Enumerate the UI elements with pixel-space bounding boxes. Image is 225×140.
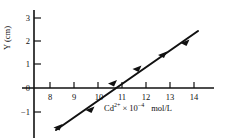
x-tick-label-14: 14 [190, 93, 199, 102]
plot-area [0, 0, 225, 140]
x-tick-label-11: 11 [118, 93, 126, 102]
x-axis-title: Cd2+ × 10−4mol/L [104, 103, 172, 113]
y-axis-ticks [34, 18, 41, 112]
data-point-3 [108, 80, 117, 87]
fit-line [56, 31, 198, 130]
x-axis-title-exponent: −4 [138, 102, 144, 108]
x-axis-title-species: Cd [104, 103, 114, 113]
x-axis-title-times: × [122, 103, 127, 113]
x-axis-title-base: 10 [129, 103, 138, 113]
x-tick-label-9: 9 [72, 93, 76, 102]
x-tick-label-13: 13 [166, 93, 175, 102]
x-axis-title-unit: mol/L [151, 103, 172, 113]
x-tick-label-8: 8 [48, 93, 52, 102]
y-tick-label-2: 2 [12, 37, 30, 46]
y-axis-title: Y (cm) [2, 26, 12, 50]
x-axis-title-charge: 2+ [114, 102, 120, 108]
y-tick-label-1: 1 [12, 60, 30, 69]
y-tick-label-3: 3 [12, 14, 30, 23]
y-tick-label-minus1: −1 [8, 108, 30, 117]
y-tick-label-0: 0 [12, 84, 30, 93]
x-tick-label-10: 10 [95, 93, 104, 102]
chart-figure: 3 2 1 0 −1 8 9 10 11 12 13 14 Y (cm) Cd2… [0, 0, 225, 140]
x-tick-label-12: 12 [142, 93, 151, 102]
